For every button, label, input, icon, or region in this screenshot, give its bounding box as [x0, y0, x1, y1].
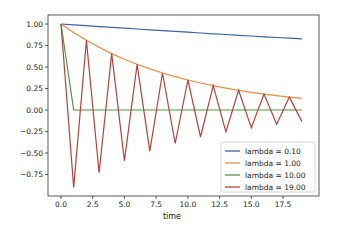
- legend-label: lambda = 19.00: [245, 183, 306, 192]
- y-tick-label: 0.75: [26, 41, 43, 50]
- y-axis-ticks: 1.000.750.500.250.00−0.25−0.50−0.75: [20, 20, 48, 180]
- y-tick-label: −0.75: [20, 170, 43, 179]
- line-chart: 0.02.55.07.510.012.515.017.5 1.000.750.5…: [0, 0, 337, 237]
- y-tick-label: −0.25: [20, 127, 43, 136]
- x-tick-label: 17.5: [275, 200, 292, 209]
- series-line-1: [61, 24, 302, 98]
- x-tick-label: 2.5: [87, 200, 99, 209]
- legend-label: lambda = 1.00: [245, 159, 301, 168]
- x-axis-ticks: 0.02.55.07.510.012.515.017.5: [55, 196, 292, 209]
- x-tick-label: 10.0: [180, 200, 197, 209]
- series-line-0: [61, 24, 302, 39]
- x-tick-label: 0.0: [55, 200, 67, 209]
- x-tick-label: 5.0: [118, 200, 130, 209]
- y-tick-label: −0.50: [20, 149, 43, 158]
- y-tick-label: 0.25: [26, 84, 43, 93]
- x-tick-label: 7.5: [150, 200, 162, 209]
- x-tick-label: 15.0: [243, 200, 260, 209]
- legend-label: lambda = 0.10: [245, 147, 301, 156]
- y-tick-label: 0.00: [26, 106, 43, 115]
- y-tick-label: 1.00: [26, 20, 43, 29]
- x-tick-label: 12.5: [211, 200, 228, 209]
- legend: lambda = 0.10lambda = 1.00lambda = 10.00…: [221, 142, 315, 192]
- legend-label: lambda = 10.00: [245, 171, 306, 180]
- x-axis-label: time: [163, 212, 181, 221]
- y-tick-label: 0.50: [26, 63, 43, 72]
